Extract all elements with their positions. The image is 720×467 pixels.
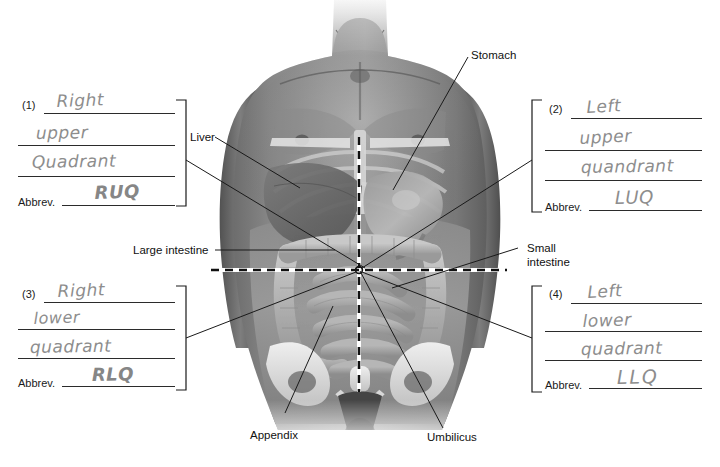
quadrant-1-answer-line-3: Quadrant <box>32 151 117 172</box>
quadrant-3-answer-line-1: Right <box>57 279 105 301</box>
label-small-intestine-line1: Small <box>527 242 556 255</box>
quadrant-4-answer-line-2: lower <box>582 309 632 331</box>
label-liver: Liver <box>190 131 215 144</box>
quadrant-1-abbrev-answer: RUQ <box>94 180 140 203</box>
quadrant-1-rule-3 <box>18 176 175 177</box>
quadrant-2-abbrev-label: Abbrev. <box>545 201 582 213</box>
quadrant-2-answer-line-1: Left <box>586 95 622 117</box>
worksheet-canvas: Stomach Liver Large intestine Small inte… <box>0 0 720 467</box>
quadrant-1-rule-2 <box>18 145 175 146</box>
quadrant-3-answer-line-2: lower <box>33 307 80 328</box>
quadrant-4-abbrev-label: Abbrev. <box>545 379 582 391</box>
label-umbilicus: Umbilicus <box>427 431 477 444</box>
quadrant-4-rule-3 <box>545 360 702 361</box>
quadrant-4-answer-line-1: Left <box>587 280 623 302</box>
quadrant-1-rule-1 <box>44 113 175 114</box>
label-stomach: Stomach <box>471 49 516 62</box>
quadrant-2-rule-1 <box>571 118 702 119</box>
quadrant-2-number: (2) <box>549 103 562 115</box>
quadrant-3-rule-3 <box>18 358 175 359</box>
bracket-box2 <box>532 100 542 212</box>
quadrant-3-number: (3) <box>22 288 35 300</box>
quadrant-4-abbrev-answer: LLQ <box>617 365 660 388</box>
quadrant-4-answer-line-3: quadrant <box>581 338 663 359</box>
quadrant-3-abbrev-answer: RLQ <box>92 363 135 385</box>
quadrant-1-answer-line-2: upper <box>36 122 89 143</box>
quadrant-3-rule-4 <box>62 386 175 387</box>
quadrant-3-abbrev-label: Abbrev. <box>18 377 55 389</box>
quadrant-1-answer-line-1: Right <box>56 89 104 111</box>
quadrant-1-rule-4 <box>62 205 175 206</box>
quadrant-2-answer-line-3: quandrant <box>581 155 674 177</box>
quadrant-4-number: (4) <box>549 288 562 300</box>
quadrant-4-rule-1 <box>571 303 702 304</box>
quadrant-1-number: (1) <box>22 99 35 111</box>
quadrant-4-rule-4 <box>589 388 702 389</box>
quadrant-2-rule-3 <box>545 180 702 181</box>
torso-anatomy-illustration <box>210 0 510 460</box>
quadrant-3-answer-line-3: quadrant <box>30 336 112 357</box>
quadrant-3-rule-2 <box>18 329 175 330</box>
quadrant-2-rule-4 <box>589 210 702 211</box>
quadrant-1-abbrev-label: Abbrev. <box>18 196 55 208</box>
quadrant-3-rule-1 <box>44 302 175 303</box>
quadrant-2-answer-line-2: upper <box>579 125 632 148</box>
bracket-box3 <box>176 286 186 390</box>
label-large-intestine: Large intestine <box>133 244 208 257</box>
bracket-box1 <box>176 100 186 206</box>
label-small-intestine-line2: intestine <box>527 256 570 269</box>
quadrant-2-abbrev-answer: LUQ <box>615 186 654 208</box>
quadrant-2-rule-2 <box>545 150 702 151</box>
bracket-box4 <box>532 286 542 392</box>
label-appendix: Appendix <box>250 429 298 442</box>
quadrant-4-rule-2 <box>545 331 702 332</box>
